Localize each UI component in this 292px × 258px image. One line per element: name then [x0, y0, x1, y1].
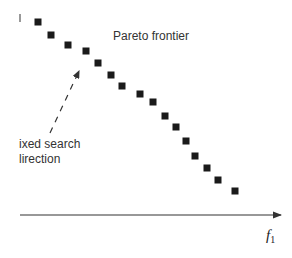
pareto-point — [215, 177, 222, 184]
pareto-point — [108, 72, 115, 79]
pareto-point — [173, 124, 180, 131]
search-direction-label-line2: lirection — [19, 152, 60, 166]
pareto-point — [83, 48, 90, 55]
pareto-point — [192, 153, 199, 160]
pareto-point — [35, 19, 42, 26]
pareto-point — [119, 83, 126, 90]
x-axis-label: f1 — [266, 227, 275, 245]
pareto-point — [162, 113, 169, 120]
pareto-frontier-label: Pareto frontier — [113, 29, 189, 43]
search-direction-arrow — [50, 71, 79, 133]
pareto-point — [204, 165, 211, 172]
x-axis-label-subscript: 1 — [270, 234, 275, 245]
pareto-point — [65, 42, 72, 49]
pareto-point — [48, 32, 55, 39]
pareto-point — [137, 91, 144, 98]
pareto-point — [183, 138, 190, 145]
pareto-point — [150, 99, 157, 106]
search-direction-label-line1: ixed search — [19, 137, 80, 151]
pareto-point — [95, 60, 102, 67]
pareto-point — [232, 188, 239, 195]
pareto-points — [35, 19, 239, 195]
pareto-diagram: Pareto frontier ixed search lirection f1 — [0, 0, 292, 258]
